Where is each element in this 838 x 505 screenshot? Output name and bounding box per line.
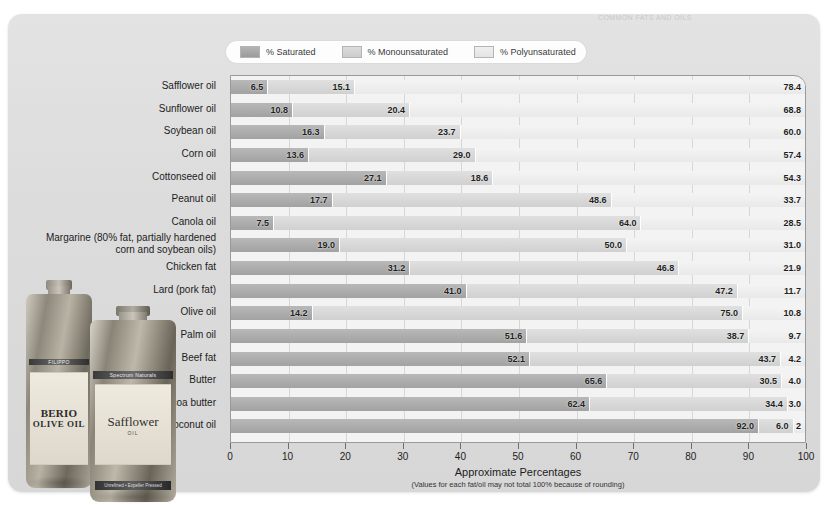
bar-segment-polyunsaturated: 11.7 <box>738 284 805 298</box>
bar-segment-polyunsaturated: 9.7 <box>749 329 805 343</box>
chart-bar-row: 41.047.211.7 <box>231 284 805 298</box>
x-axis-tick <box>345 443 346 449</box>
bottle-product-sub: OIL <box>127 430 138 436</box>
legend-swatch-polyunsaturated-icon <box>474 46 494 58</box>
bar-segment-polyunsaturated: 3.0 <box>788 397 805 411</box>
bar-value-label: 16.3 <box>302 127 324 137</box>
bar-segment-monounsaturated: 75.0 <box>313 306 744 320</box>
bar-segment-monounsaturated: 64.0 <box>274 216 641 230</box>
category-label: Soybean oil <box>164 125 216 137</box>
safflower-oil-bottle: Spectrum Naturals Safflower OIL Unrefine… <box>90 306 176 502</box>
bar-value-label: 52.1 <box>508 354 530 364</box>
x-axis-tick <box>460 443 461 449</box>
bar-segment-polyunsaturated: 54.3 <box>493 171 805 185</box>
chart-bar-row: 31.246.821.9 <box>231 261 805 275</box>
x-axis-tick-label: 60 <box>570 451 581 462</box>
bar-value-label: 78.4 <box>783 82 805 92</box>
olive-oil-bottle: FILIPPO BERIO OLIVE OIL <box>26 280 92 488</box>
bottle-product: OLIVE OIL <box>33 419 85 429</box>
chart-bar-row: 14.275.010.8 <box>231 306 805 320</box>
x-axis-tick <box>518 443 519 449</box>
bar-value-label: 62.4 <box>567 399 589 409</box>
bar-value-label: 65.6 <box>585 376 607 386</box>
category-label: Cottonseed oil <box>152 171 216 183</box>
chart-bar-row: 7.564.028.5 <box>231 216 805 230</box>
bar-segment-monounsaturated: 46.8 <box>410 261 679 275</box>
bar-segment-polyunsaturated: 57.4 <box>476 148 805 162</box>
bar-segment-monounsaturated: 20.4 <box>293 103 410 117</box>
bottle-brand: BERIO <box>41 407 77 419</box>
bar-segment-monounsaturated: 6.0 <box>759 419 793 433</box>
x-axis-tick <box>403 443 404 449</box>
chart-bar-row: 6.515.178.4 <box>231 80 805 94</box>
chart-bar-row: 65.630.54.0 <box>231 374 805 388</box>
oil-bottles-photo: FILIPPO BERIO OLIVE OIL Spectrum Natural… <box>22 272 198 504</box>
category-label: Safflower oil <box>162 80 216 92</box>
x-axis-tick <box>806 443 807 449</box>
bar-value-label: 11.7 <box>784 286 805 296</box>
bar-segment-saturated: 14.2 <box>231 306 313 320</box>
bar-value-label: 31.0 <box>783 240 805 250</box>
bar-value-label: 34.4 <box>765 399 787 409</box>
x-axis-tick-label: 90 <box>743 451 754 462</box>
bar-value-label: 4.0 <box>788 376 805 386</box>
chart-bar-row: 92.06.02 <box>231 419 805 433</box>
x-axis-tick-label: 0 <box>227 451 233 462</box>
chart-bar-row: 13.629.057.4 <box>231 148 805 162</box>
bottle-label: Safflower OIL <box>95 384 171 464</box>
bar-value-label: 2 <box>796 421 805 431</box>
x-axis-tick-label: 70 <box>628 451 639 462</box>
category-label: Canola oil <box>172 216 216 228</box>
x-axis-tick-label: 10 <box>282 451 293 462</box>
bar-segment-saturated: 41.0 <box>231 284 467 298</box>
bar-segment-saturated: 10.8 <box>231 103 293 117</box>
bar-segment-polyunsaturated: 33.7 <box>612 193 805 207</box>
legend-swatch-saturated-icon <box>240 46 260 58</box>
bar-value-label: 7.5 <box>257 218 274 228</box>
bar-segment-polyunsaturated: 2 <box>794 419 805 433</box>
bar-value-label: 14.2 <box>290 308 312 318</box>
bar-value-label: 48.6 <box>589 195 611 205</box>
bar-value-label: 41.0 <box>444 286 466 296</box>
bar-segment-polyunsaturated: 21.9 <box>679 261 805 275</box>
bar-value-label: 15.1 <box>332 82 354 92</box>
bottle-neckband: FILIPPO <box>29 359 90 365</box>
bar-value-label: 57.4 <box>783 150 805 160</box>
x-axis-tick-label: 100 <box>798 451 815 462</box>
bottle-shadow <box>26 476 92 490</box>
bar-segment-monounsaturated: 38.7 <box>527 329 749 343</box>
chart-bar-row: 62.434.43.0 <box>231 397 805 411</box>
x-axis-tick-label: 30 <box>397 451 408 462</box>
chart-bar-row: 19.050.031.0 <box>231 238 805 252</box>
bar-value-label: 31.2 <box>388 263 410 273</box>
bar-value-label: 29.0 <box>453 150 475 160</box>
bar-segment-polyunsaturated: 78.4 <box>355 80 805 94</box>
legend-swatch-monounsaturated-icon <box>342 46 362 58</box>
bar-segment-saturated: 6.5 <box>231 80 268 94</box>
chart-bar-row: 17.748.633.7 <box>231 193 805 207</box>
bar-segment-monounsaturated: 47.2 <box>467 284 738 298</box>
bar-segment-polyunsaturated: 10.8 <box>743 306 805 320</box>
bar-value-label: 46.8 <box>657 263 679 273</box>
bar-value-label: 27.1 <box>364 173 386 183</box>
x-axis-tick-label: 80 <box>685 451 696 462</box>
x-axis-subtitle: (Values for each fat/oil may not total 1… <box>230 480 806 489</box>
bar-segment-polyunsaturated: 28.5 <box>641 216 805 230</box>
bar-value-label: 47.2 <box>715 286 737 296</box>
category-label: Peanut oil <box>172 193 216 205</box>
bar-segment-monounsaturated: 18.6 <box>387 171 494 185</box>
category-label: Corn oil <box>182 148 216 160</box>
chart-x-axis: 0102030405060708090100 <box>230 443 806 450</box>
bar-segment-saturated: 51.6 <box>231 329 527 343</box>
legend-label-monounsaturated: % Monounsaturated <box>368 47 449 57</box>
chart-plot: 6.515.178.410.820.468.816.323.760.013.62… <box>230 75 806 443</box>
bar-segment-monounsaturated: 48.6 <box>333 193 612 207</box>
chart-legend: % Saturated % Monounsaturated % Polyunsa… <box>226 41 586 63</box>
bar-segment-monounsaturated: 29.0 <box>309 148 475 162</box>
bar-value-label: 54.3 <box>783 173 805 183</box>
bar-segment-saturated: 19.0 <box>231 238 340 252</box>
x-axis-tick <box>748 443 749 449</box>
bar-value-label: 18.6 <box>471 173 493 183</box>
bottle-shadow <box>90 490 176 504</box>
chart-bar-row: 27.118.654.3 <box>231 171 805 185</box>
